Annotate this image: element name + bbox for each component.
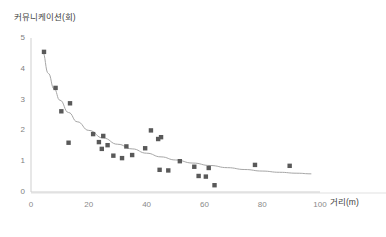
- data-point: [192, 165, 196, 169]
- data-point: [59, 109, 63, 113]
- data-point: [157, 168, 161, 172]
- y-tick-label: 2: [9, 125, 25, 134]
- y-tick-label: 3: [9, 95, 25, 104]
- data-point: [130, 153, 134, 157]
- data-point: [91, 132, 95, 136]
- y-tick-label: 4: [9, 64, 25, 73]
- data-point: [166, 168, 170, 172]
- data-point: [42, 50, 46, 54]
- data-point: [143, 146, 147, 150]
- data-point: [100, 147, 104, 151]
- data-point: [196, 174, 200, 178]
- x-tick-label: 40: [135, 200, 159, 209]
- x-tick-label: 20: [77, 200, 101, 209]
- y-tick-label: 1: [9, 156, 25, 165]
- x-tick-label: 80: [250, 200, 274, 209]
- data-point: [253, 163, 257, 167]
- x-tick-label: 60: [192, 200, 216, 209]
- y-tick-label: 5: [9, 33, 25, 42]
- data-point: [178, 159, 182, 163]
- data-point: [105, 143, 109, 147]
- data-point: [124, 144, 128, 148]
- data-point: [101, 134, 105, 138]
- data-point: [204, 174, 208, 178]
- data-point: [97, 140, 101, 144]
- data-point: [66, 141, 70, 145]
- data-point: [53, 86, 57, 90]
- x-tick-label: 0: [19, 200, 43, 209]
- data-point: [287, 164, 291, 168]
- data-point: [149, 128, 153, 132]
- scatter-chart: 커뮤니케이션(회) 거리(m) 012345 020406080100: [0, 0, 386, 237]
- x-tick-label: 100: [308, 200, 332, 209]
- trendline: [43, 52, 312, 174]
- data-point: [159, 135, 163, 139]
- data-point: [111, 153, 115, 157]
- data-points-group: [42, 50, 292, 188]
- data-point: [212, 183, 216, 187]
- y-tick-label: 0: [9, 187, 25, 196]
- data-point: [68, 101, 72, 105]
- data-point: [120, 156, 124, 160]
- data-point: [207, 166, 211, 170]
